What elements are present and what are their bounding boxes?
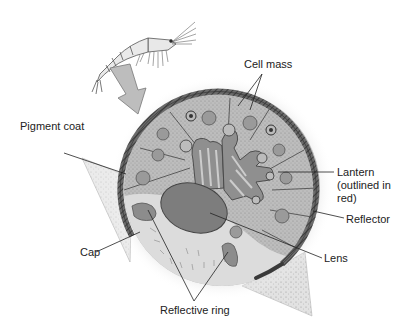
label-reflective-ring: Reflective ring — [160, 304, 230, 317]
label-lantern: Lantern (outlined in red) — [337, 166, 391, 205]
photophore-diagram: Cell mass Pigment coat Lantern (outlined… — [0, 0, 403, 334]
label-lantern-line1: Lantern — [337, 166, 391, 179]
label-cap: Cap — [80, 246, 100, 259]
krill-icon — [92, 22, 196, 94]
label-pigment-coat: Pigment coat — [20, 120, 84, 133]
label-cell-mass: Cell mass — [244, 58, 292, 71]
label-lens: Lens — [324, 252, 348, 265]
zoom-arrow-icon — [110, 64, 146, 114]
label-lantern-line2: (outlined in — [337, 179, 391, 192]
label-lantern-line3: red) — [337, 192, 391, 205]
label-reflector: Reflector — [346, 213, 390, 226]
